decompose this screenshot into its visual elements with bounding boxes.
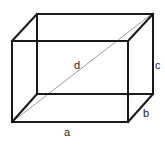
edge-bottom-left xyxy=(12,94,37,122)
label-a: a xyxy=(64,127,70,138)
cuboid-drawing xyxy=(0,0,165,145)
edge-bottom-right-b xyxy=(128,94,153,122)
label-b: b xyxy=(143,108,149,119)
space-diagonal-d xyxy=(12,13,153,122)
cuboid-diagram: d c b a xyxy=(0,0,165,145)
edge-top-right xyxy=(128,14,153,41)
label-c: c xyxy=(155,60,161,71)
label-d: d xyxy=(74,60,80,71)
front-face xyxy=(12,41,128,122)
edge-top-left xyxy=(12,14,37,41)
